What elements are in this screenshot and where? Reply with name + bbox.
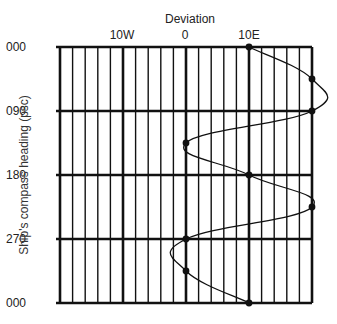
data-point (183, 268, 190, 275)
grid (56, 47, 312, 303)
data-point (183, 140, 190, 147)
data-point (246, 172, 253, 179)
data-point (309, 76, 316, 83)
data-point (183, 236, 190, 243)
data-point (246, 44, 253, 51)
data-point (309, 204, 316, 211)
data-point (246, 300, 253, 307)
plot-area (0, 0, 337, 324)
data-point (309, 108, 316, 115)
